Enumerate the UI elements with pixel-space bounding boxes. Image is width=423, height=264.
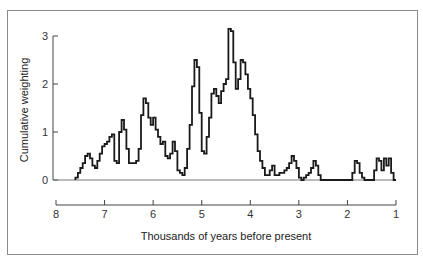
y-tick-label: 0: [42, 174, 48, 186]
step-chart: 0123 Cumulative weighting 87654321 Thous…: [0, 0, 423, 264]
y-tick-label: 3: [42, 30, 48, 42]
x-tick-label: 3: [296, 208, 302, 220]
x-axis-title: Thousands of years before present: [141, 230, 312, 242]
x-tick-label: 6: [150, 208, 156, 220]
series-step-line: [75, 29, 396, 180]
x-tick-label: 7: [102, 208, 108, 220]
x-tick-label: 8: [53, 208, 59, 220]
x-axis: 87654321 Thousands of years before prese…: [53, 200, 399, 242]
y-axis-title: Cumulative weighting: [18, 58, 30, 163]
x-tick-label: 2: [344, 208, 350, 220]
y-tick-label: 1: [42, 126, 48, 138]
y-axis: 0123 Cumulative weighting: [18, 30, 58, 186]
x-tick-label: 4: [247, 208, 253, 220]
y-tick-label: 2: [42, 78, 48, 90]
x-tick-label: 1: [393, 208, 399, 220]
x-tick-label: 5: [199, 208, 205, 220]
